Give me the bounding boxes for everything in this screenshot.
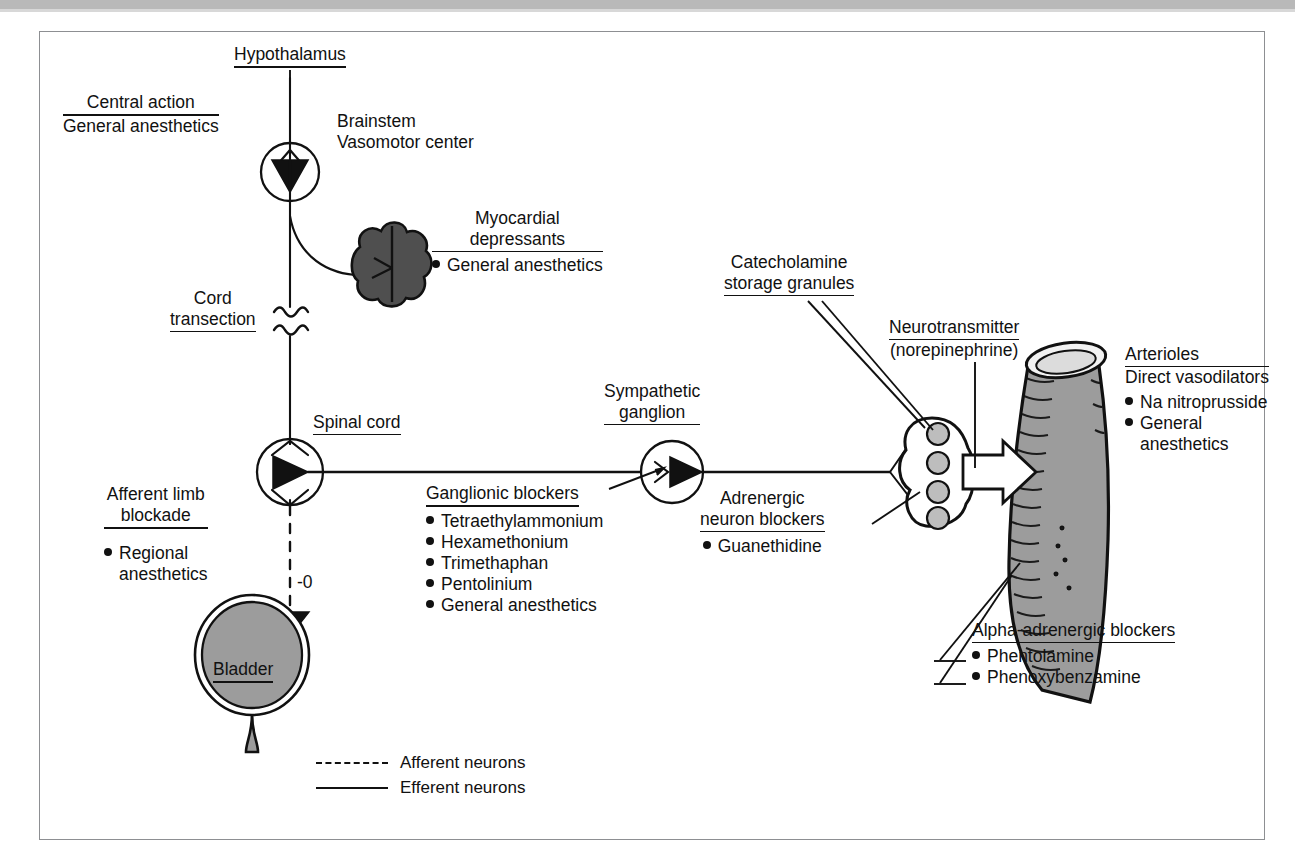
diagram-page: Hypothalamus Central action General anes… [0,0,1295,861]
storage-granule-2 [927,452,949,474]
label-sympathetic-ganglion: Sympathetic ganglion [604,381,700,425]
legend-item-efferent: Efferent neurons [316,775,525,800]
cord-transection-squiggle-bottom [274,326,308,335]
label-neurotransmitter: Neurotransmitter (norepinephrine) [889,317,1019,361]
label-direct-vasodilators: Arterioles Direct vasodilators Na nitrop… [1125,344,1269,455]
bullet-icon [703,541,711,549]
label-bladder: Bladder [213,659,273,683]
label-catecholamine-granules: Catecholamine storage granules [724,252,854,296]
label-adrenergic-neuron-blockers: Adrenergic neuron blockers Guanethidine [700,488,825,557]
storage-granule-3 [927,481,949,503]
bullet-icon [1125,418,1133,426]
heart-myocardium [352,222,432,306]
storage-granule-4 [927,507,949,529]
label-spinal-cord: Spinal cord [313,412,401,435]
spinal-cord-synapse-triangle [273,456,308,489]
legend: Afferent neurons Efferent neurons [316,750,525,800]
legend-item-afferent: Afferent neurons [316,750,525,775]
label-alpha-adrenergic-blockers: Alpha-adrenergic blockers Phentolamine P… [972,620,1175,688]
label-central-action: Central action General anesthetics [63,92,219,137]
bullet-icon [432,260,440,268]
label-hypothalamus: Hypothalamus [234,44,346,68]
label-myocardial-depressants: Myocardial depressants General anestheti… [432,208,603,276]
cord-transection-squiggle-top [274,308,308,317]
bullet-icon [426,558,434,566]
label-ganglionic-blockers: Ganglionic blockers Tetraethylammonium H… [426,483,603,616]
label-cord-transection: Cord transection [170,288,256,332]
bullet-icon [104,548,112,556]
bullet-icon [972,672,980,680]
label-afferent-limb-blockade: Afferent limb blockade Regional anesthet… [104,484,208,585]
bullet-icon [972,651,980,659]
dashed-line-icon [316,762,388,764]
ganglion-synapse-triangle [670,457,702,487]
solid-line-icon [316,787,388,789]
bullet-icon [426,516,434,524]
bullet-icon [426,579,434,587]
brainstem-to-heart-connector [290,216,355,275]
bullet-icon [426,600,434,608]
bladder-inner-lumen [202,602,302,708]
label-brainstem: Brainstem Vasomotor center [337,111,474,153]
bullet-icon [1125,397,1133,405]
bullet-icon [426,537,434,545]
label-afferent-marker: -0 [297,572,313,593]
